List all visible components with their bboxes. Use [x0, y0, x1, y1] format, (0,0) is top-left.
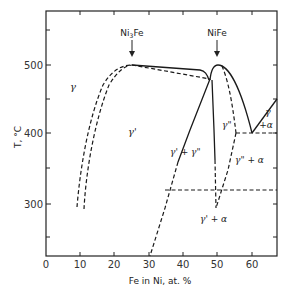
x-axis-label: Fe in Ni, at. %	[129, 276, 192, 286]
svg-text:60: 60	[246, 259, 259, 270]
svg-text:γ: γ	[265, 107, 271, 117]
svg-text:γ' + γ": γ' + γ"	[170, 147, 201, 157]
arrow-down-icon	[214, 51, 220, 57]
svg-text:10: 10	[74, 259, 87, 270]
svg-text:500: 500	[24, 60, 43, 71]
svg-text:20: 20	[108, 259, 121, 270]
svg-text:γ: γ	[70, 81, 76, 92]
svg-text:γ': γ'	[128, 126, 137, 137]
marker-nife: NiFe	[207, 28, 227, 57]
x-tick-labels: 0 10 20 30 40 50 60	[43, 259, 259, 270]
arrow-down-icon	[129, 51, 135, 57]
phase-labels: γ γ' γ' + γ" γ" γ" + α γ' + α γ +α	[70, 81, 273, 224]
y-axis-label: T, °C	[13, 126, 23, 149]
svg-text:400: 400	[24, 128, 43, 139]
svg-text:50: 50	[211, 259, 224, 270]
svg-text:30: 30	[143, 259, 156, 270]
svg-text:NiFe: NiFe	[207, 28, 227, 38]
svg-text:γ' + α: γ' + α	[200, 214, 227, 224]
svg-text:γ" + α: γ" + α	[235, 155, 264, 165]
y-ticks	[46, 30, 277, 237]
svg-text:40: 40	[177, 259, 190, 270]
svg-text:300: 300	[24, 199, 43, 210]
marker-ni3fe: Ni3Fe	[120, 28, 144, 57]
y-tick-labels: 300 400 500	[24, 60, 43, 210]
phase-diagram: 0 10 20 30 40 50 60 300 400 500 Fe in Ni…	[0, 0, 290, 294]
svg-text:+α: +α	[259, 120, 273, 130]
svg-text:γ": γ"	[222, 120, 232, 130]
svg-text:Ni3Fe: Ni3Fe	[120, 28, 144, 39]
svg-text:0: 0	[43, 259, 49, 270]
